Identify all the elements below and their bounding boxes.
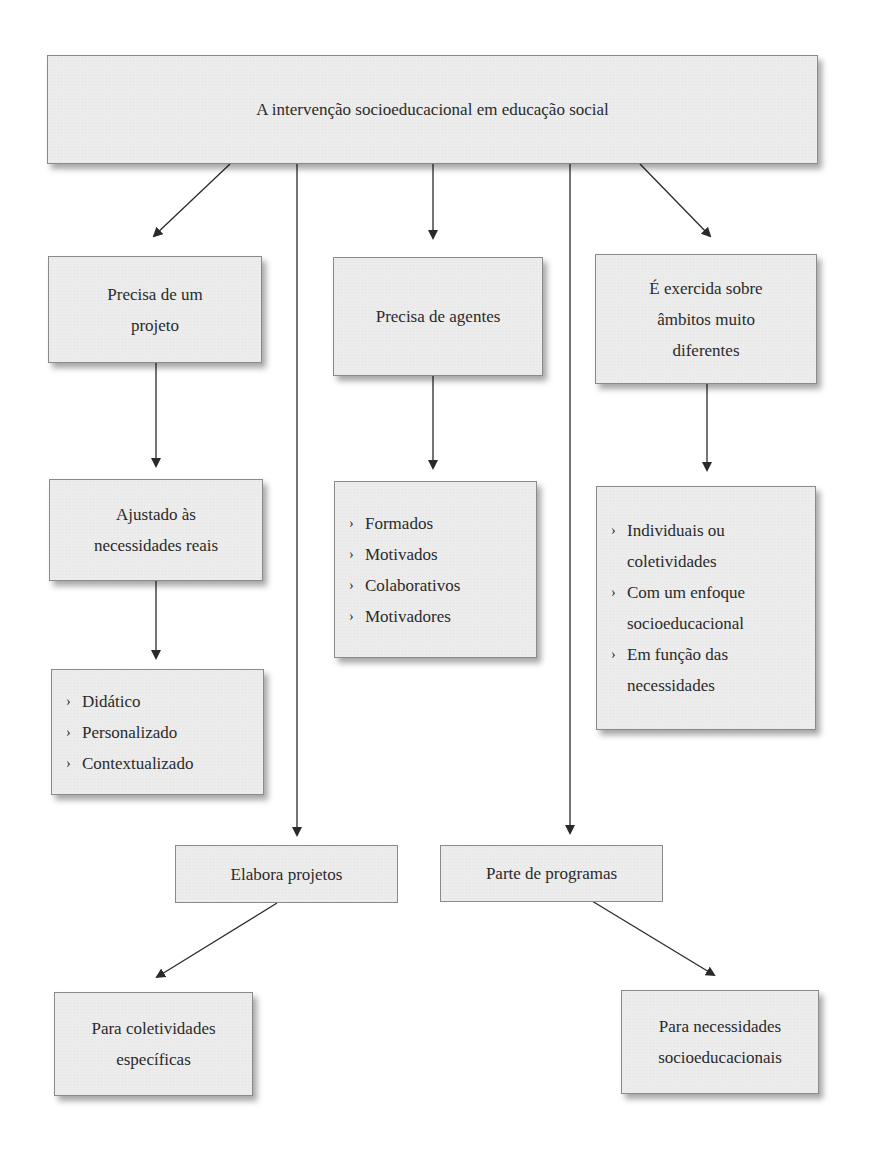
node-ambitos-list: ›Individuais oucoletividades ›Com um enf…: [596, 486, 816, 730]
list-item-text: socioeducacional: [627, 614, 744, 633]
node-label-line: Precisa de um: [107, 279, 202, 310]
chevron-right-icon: ›: [66, 686, 71, 717]
chevron-right-icon: ›: [349, 601, 354, 632]
node-para-necessidades: Para necessidades socioeducacionais: [621, 990, 819, 1094]
list-item: ›Motivados: [349, 539, 460, 570]
list-item: ›Motivadores: [349, 601, 460, 632]
list-item-text: necessidades: [627, 676, 715, 695]
chevron-right-icon: ›: [611, 515, 616, 546]
node-elabora-projetos: Elabora projetos: [175, 845, 398, 903]
node-label-line: diferentes: [649, 335, 762, 366]
list-item-text: coletividades: [627, 552, 717, 571]
list-item-text: Individuais ou: [627, 521, 725, 540]
list-item: ›Didático: [66, 686, 193, 717]
list-item-text: Contextualizado: [82, 754, 193, 773]
arrow-parte-to-necessidades: [592, 901, 714, 975]
node-label-line: Parte de programas: [486, 858, 617, 889]
chevron-right-icon: ›: [349, 508, 354, 539]
arrow-elabora-to-coletividades: [157, 903, 277, 977]
list-item: ›Formados: [349, 508, 460, 539]
list-item-text: Didático: [82, 692, 141, 711]
list-item: ›Colaborativos: [349, 570, 460, 601]
chevron-right-icon: ›: [349, 570, 354, 601]
arrow-root-to-projeto: [154, 164, 230, 236]
list-item-text: Colaborativos: [365, 576, 460, 595]
node-para-coletividades: Para coletividades específicas: [54, 992, 253, 1096]
list-item-text: Motivados: [365, 545, 438, 564]
list-item-text: Com um enfoque: [627, 583, 745, 602]
node-precisa-agentes: Precisa de agentes: [333, 257, 543, 376]
node-label-line: É exercida sobre: [649, 273, 762, 304]
list-item: ›Personalizado: [66, 717, 193, 748]
node-ajustado: Ajustado às necessidades reais: [49, 479, 263, 581]
list-item: ›Individuais oucoletividades: [611, 515, 745, 577]
node-parte-programas: Parte de programas: [440, 845, 663, 902]
projeto-list: ›Didático ›Personalizado ›Contextualizad…: [52, 686, 193, 779]
node-projeto-list: ›Didático ›Personalizado ›Contextualizad…: [51, 669, 264, 795]
list-item: ›Com um enfoquesocioeducacional: [611, 577, 745, 639]
concept-map: A intervenção socioeducacional em educaç…: [0, 0, 871, 1150]
list-item-text: Motivadores: [365, 607, 451, 626]
node-label-line: Para coletividades: [91, 1013, 215, 1044]
node-precisa-projeto: Precisa de um projeto: [48, 256, 262, 363]
node-label-line: projeto: [107, 310, 202, 341]
node-exercida-ambitos: É exercida sobre âmbitos muito diferente…: [595, 254, 817, 384]
chevron-right-icon: ›: [66, 717, 71, 748]
arrow-root-to-ambitos: [640, 164, 710, 236]
node-label-line: socioeducacionais: [658, 1042, 782, 1073]
node-label-line: Para necessidades: [658, 1011, 782, 1042]
node-label-line: âmbitos muito: [649, 304, 762, 335]
ambitos-list: ›Individuais oucoletividades ›Com um enf…: [597, 515, 745, 701]
node-label-line: necessidades reais: [94, 530, 218, 561]
list-item-text: Em função das: [627, 645, 728, 664]
chevron-right-icon: ›: [611, 639, 616, 670]
node-agentes-list: ›Formados ›Motivados ›Colaborativos ›Mot…: [334, 481, 537, 658]
root-label: A intervenção socioeducacional em educaç…: [256, 94, 609, 125]
chevron-right-icon: ›: [349, 539, 354, 570]
chevron-right-icon: ›: [611, 577, 616, 608]
chevron-right-icon: ›: [66, 748, 71, 779]
node-label-line: Ajustado às: [94, 499, 218, 530]
list-item: ›Contextualizado: [66, 748, 193, 779]
node-label-line: Precisa de agentes: [376, 301, 501, 332]
list-item-text: Formados: [365, 514, 433, 533]
list-item-text: Personalizado: [82, 723, 177, 742]
root-node: A intervenção socioeducacional em educaç…: [47, 55, 818, 164]
list-item: ›Em função dasnecessidades: [611, 639, 745, 701]
node-label-line: específicas: [91, 1044, 215, 1075]
agentes-list: ›Formados ›Motivados ›Colaborativos ›Mot…: [335, 508, 460, 632]
node-label-line: Elabora projetos: [231, 859, 343, 890]
